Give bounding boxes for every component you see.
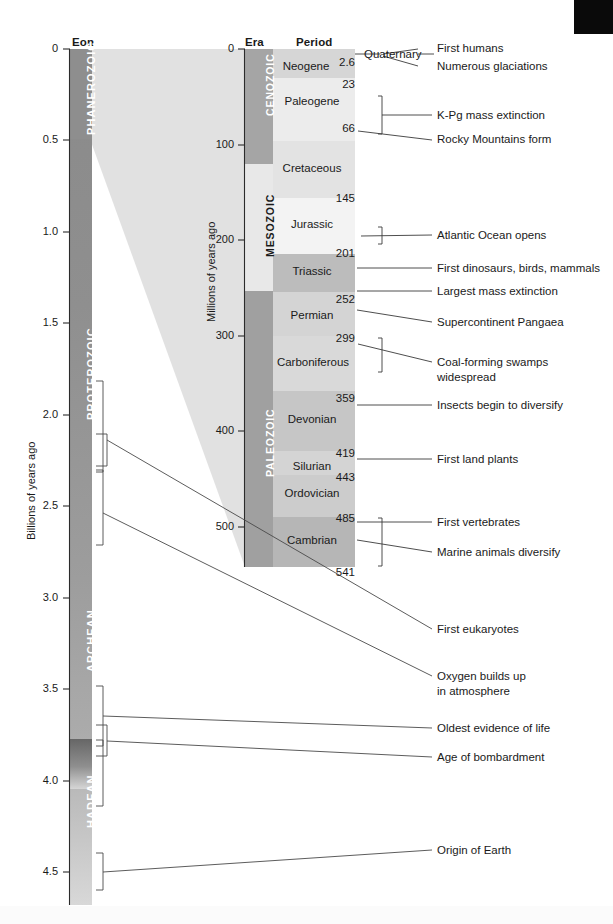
period-label-ordovician: Ordovician: [273, 487, 351, 500]
boundary-age-66: 66: [315, 122, 355, 135]
annotation-first-dinosaurs: First dinosaurs, birds, mammals: [437, 262, 600, 275]
left-tick-40: 4.0: [26, 774, 58, 787]
annotation-oldest-evidence-of-life: Oldest evidence of life: [437, 722, 550, 735]
mid-tick-0: 0: [206, 42, 234, 55]
period-label-jurassic: Jurassic: [273, 218, 351, 231]
expansion-wedge: [90, 49, 245, 567]
period-label-cambrian: Cambrian: [273, 534, 351, 547]
boundary-age-541: 541: [312, 566, 355, 579]
left-tick-0: 0: [32, 42, 58, 55]
boundary-age-485: 485: [312, 512, 355, 525]
annotation-age-of-bombardment: Age of bombardment: [437, 751, 544, 764]
period-label-devonian: Devonian: [273, 413, 351, 426]
boundary-age-23: 23: [315, 78, 355, 91]
left-tick-45: 4.5: [26, 865, 58, 878]
eon-label-archean: ARCHEAN: [85, 609, 98, 672]
boundary-age-252: 252: [312, 293, 355, 306]
left-tick-35: 3.5: [26, 682, 58, 695]
annotation-numerous-glaciations: Numerous glaciations: [437, 60, 548, 73]
mid-tick-400: 400: [206, 424, 234, 437]
boundary-age-201: 201: [312, 247, 355, 260]
annotation-oxygen-builds-up-line2: in atmosphere: [437, 685, 510, 698]
period-label-cretaceous: Cretaceous: [273, 162, 351, 175]
annotation-atlantic-ocean-opens: Atlantic Ocean opens: [437, 229, 546, 242]
eon-label-phanerozoic: PHANEROZOIC: [85, 42, 98, 135]
left-tick-20: 2.0: [26, 408, 58, 421]
annotation-coal-forming-swamps-line2: widespread: [437, 371, 496, 384]
annotation-largest-mass-extinction: Largest mass extinction: [437, 285, 558, 298]
boundary-age-443: 443: [312, 471, 355, 484]
annotation-kpg-mass-extinction: K-Pg mass extinction: [437, 109, 545, 122]
left-axis-title: Billions of years ago: [25, 442, 38, 540]
mid-axis-title: Millions of years ago: [205, 222, 218, 322]
annotation-first-humans: First humans: [437, 42, 503, 55]
annotation-insects-diversify: Insects begin to diversify: [437, 399, 563, 412]
boundary-age-359: 359: [312, 392, 355, 405]
eon-label-proterozoic: PROTEROZOIC: [85, 327, 98, 420]
annotation-oxygen-builds-up: Oxygen builds up: [437, 670, 526, 683]
annotation-supercontinent-pangaea: Supercontinent Pangaea: [437, 316, 564, 329]
annotation-first-land-plants: First land plants: [437, 453, 518, 466]
left-tick-15: 1.5: [26, 316, 58, 329]
annotation-coal-forming-swamps: Coal-forming swamps: [437, 356, 548, 369]
period-label-paleogene: Paleogene: [273, 95, 351, 108]
left-tick-05: 0.5: [26, 133, 58, 146]
annotation-origin-of-earth: Origin of Earth: [437, 844, 511, 857]
period-label-permian: Permian: [273, 309, 351, 322]
boundary-age-419: 419: [312, 447, 355, 460]
annotation-rocky-mountains-form: Rocky Mountains form: [437, 133, 551, 146]
boundary-age-299: 299: [312, 332, 355, 345]
period-label-carboniferous: Carboniferous: [271, 356, 355, 369]
mid-tick-300: 300: [206, 329, 234, 342]
boundary-age-2-6: 2.6: [315, 56, 355, 69]
left-tick-30: 3.0: [26, 591, 58, 604]
annotation-first-vertebrates: First vertebrates: [437, 516, 520, 529]
mid-tick-500: 500: [206, 520, 234, 533]
annotation-quaternary: Quaternary: [364, 48, 422, 61]
eon-label-hadean: HADEAN: [85, 774, 98, 828]
geologic-time-scale-figure: Eon Era Period 0 0.5 1.0 1.5 2.0 2.5 3.0…: [0, 0, 613, 924]
annotation-first-eukaryotes: First eukaryotes: [437, 623, 519, 636]
mid-tick-100: 100: [206, 138, 234, 151]
left-tick-10: 1.0: [26, 225, 58, 238]
annotation-marine-animals-diversify: Marine animals diversify: [437, 546, 560, 559]
period-leader-lines: [355, 49, 434, 566]
era-column-header: Era: [245, 36, 264, 49]
boundary-age-145: 145: [312, 192, 355, 205]
period-column-header: Period: [296, 36, 332, 49]
period-label-triassic: Triassic: [273, 265, 351, 278]
